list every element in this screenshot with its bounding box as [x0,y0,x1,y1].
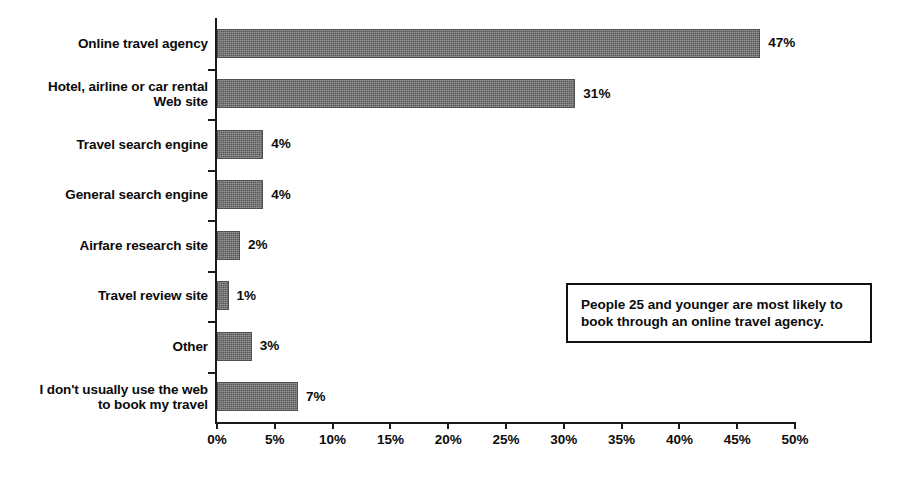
y-axis-tick [208,69,216,71]
category-label: Travel review site [3,288,208,303]
bar-value-label: 47% [768,35,795,50]
bar [217,180,263,209]
x-axis-tick [216,422,218,429]
x-axis-tick-label: 50% [773,432,817,447]
category-label: I don't usually use the web to book my t… [3,382,208,412]
x-axis-tick [678,422,680,429]
y-axis-tick [208,119,216,121]
bar [217,332,252,361]
bar-value-label: 4% [271,187,291,202]
bar-value-label: 3% [260,338,280,353]
category-axis-labels: Online travel agencyHotel, airline or ca… [0,0,208,485]
x-axis-tick-label: 35% [600,432,644,447]
category-label: Other [3,339,208,354]
x-axis-tick [736,422,738,429]
bar [217,29,760,58]
bar [217,231,240,260]
x-axis-tick [563,422,565,429]
x-axis-tick-label: 15% [368,432,412,447]
x-axis-tick [332,422,334,429]
category-label: Travel search engine [3,137,208,152]
x-axis-tick-label: 0% [195,432,239,447]
plot-area: 47%31%4%4%2%1%3%7% 0%5%10%15%20%25%30%35… [217,18,795,422]
category-label: General search engine [3,187,208,202]
bar [217,79,575,108]
x-axis-tick-label: 45% [715,432,759,447]
x-axis-tick-label: 30% [542,432,586,447]
x-axis-tick-label: 25% [484,432,528,447]
x-axis-tick [505,422,507,429]
y-axis-tick [208,321,216,323]
bar-value-label: 2% [248,237,268,252]
x-axis-tick [274,422,276,429]
bar-value-label: 4% [271,136,291,151]
y-axis-tick [208,271,216,273]
bar-value-label: 1% [237,288,257,303]
bar-chart: Online travel agencyHotel, airline or ca… [0,0,899,485]
x-axis-tick [447,422,449,429]
y-axis-tick [208,170,216,172]
y-axis-tick [208,372,216,374]
category-label: Airfare research site [3,238,208,253]
x-axis-tick-label: 40% [657,432,701,447]
x-axis-tick [389,422,391,429]
category-label: Hotel, airline or car rental Web site [3,79,208,109]
annotation-callout-box: People 25 and younger are most likely to… [566,283,872,343]
x-axis-tick-label: 5% [253,432,297,447]
bar [217,130,263,159]
bar-value-label: 31% [583,86,610,101]
x-axis-tick [794,422,796,429]
annotation-text: People 25 and younger are most likely to… [581,296,865,330]
x-axis-tick-label: 10% [311,432,355,447]
bar-value-label: 7% [306,389,326,404]
bar [217,281,229,310]
x-axis-tick-label: 20% [426,432,470,447]
x-axis-tick [621,422,623,429]
category-label: Online travel agency [3,36,208,51]
y-axis-tick [208,220,216,222]
bar [217,382,298,411]
